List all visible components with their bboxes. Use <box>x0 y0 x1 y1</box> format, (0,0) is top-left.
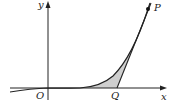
diagram-canvas <box>0 0 170 105</box>
point-p-label: P <box>154 3 161 13</box>
x-axis-label: x <box>161 92 167 102</box>
y-axis-label: y <box>38 0 44 10</box>
x-axis-arrow-icon <box>160 86 167 91</box>
shaded-region <box>80 9 148 88</box>
tangent-line <box>117 3 151 88</box>
point-q-label: Q <box>111 91 119 101</box>
curve <box>10 3 150 92</box>
diagram: y x O Q P <box>0 0 170 105</box>
origin-label: O <box>36 91 44 101</box>
y-axis-arrow-icon <box>46 1 51 8</box>
point-p-marker <box>146 7 150 11</box>
